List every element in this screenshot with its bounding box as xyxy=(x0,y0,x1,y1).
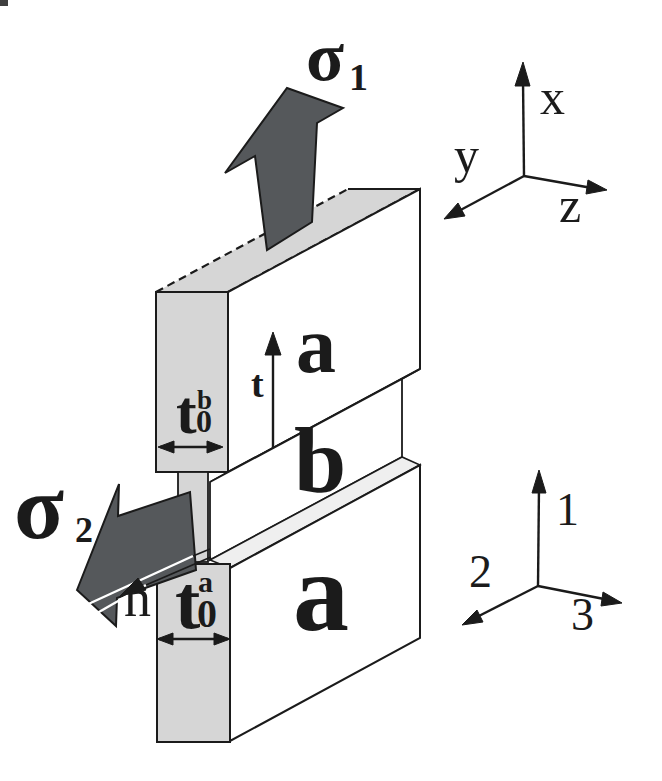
sigma1-symbol: σ xyxy=(306,18,344,95)
n-direction-label: n xyxy=(124,568,151,628)
axis-2-label: 2 xyxy=(469,546,492,597)
laminate-stress-diagram: σ 1 σ 2 a b a t n t b 0 t a 0 x y z 1 2 … xyxy=(0,0,662,781)
thickness-b-subscript: 0 xyxy=(196,403,212,439)
bottom-layer-label: a xyxy=(293,530,349,654)
axis-3-label: 3 xyxy=(571,589,594,640)
sigma2-subscript: 2 xyxy=(75,510,93,550)
sigma1-subscript: 1 xyxy=(349,56,368,98)
thickness-a-label: t a 0 xyxy=(175,560,217,644)
x-axis-label: x xyxy=(540,69,565,125)
figure-stage: σ 1 σ 2 a b a t n t b 0 t a 0 x y z 1 2 … xyxy=(0,0,662,781)
middle-layer-label: b xyxy=(294,408,346,512)
scan-artifact-speck xyxy=(0,0,8,6)
thickness-a-subscript: 0 xyxy=(197,591,217,636)
t-direction-label: t xyxy=(251,363,264,405)
top-layer-label: a xyxy=(296,301,336,389)
x-axis-line xyxy=(523,80,524,176)
thickness-b-base: t xyxy=(176,378,197,446)
sigma2-symbol: σ xyxy=(14,456,64,558)
z-axis-label: z xyxy=(559,177,581,233)
axis-1-line xyxy=(538,486,539,586)
axis-1-label: 1 xyxy=(556,484,579,535)
thickness-b-label: t b 0 xyxy=(176,378,216,446)
y-axis-label: y xyxy=(454,127,479,183)
